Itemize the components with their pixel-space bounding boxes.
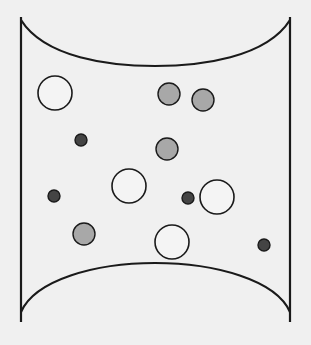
medium-gray-particle	[156, 138, 178, 160]
large-hollow-particle	[38, 76, 72, 110]
large-hollow-particle	[155, 225, 189, 259]
medium-gray-particle	[73, 223, 95, 245]
container-outline	[21, 17, 290, 322]
large-hollow-particle	[200, 180, 234, 214]
container-top-arc	[21, 20, 290, 66]
container-bottom-arc	[21, 263, 290, 312]
particles-group	[38, 76, 270, 259]
small-dark-particle	[258, 239, 270, 251]
medium-gray-particle	[158, 83, 180, 105]
small-dark-particle	[48, 190, 60, 202]
small-dark-particle	[182, 192, 194, 204]
particle-container-diagram	[0, 0, 311, 345]
medium-gray-particle	[192, 89, 214, 111]
large-hollow-particle	[112, 169, 146, 203]
small-dark-particle	[75, 134, 87, 146]
